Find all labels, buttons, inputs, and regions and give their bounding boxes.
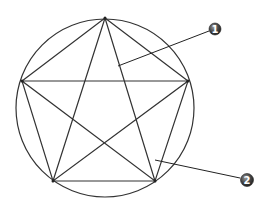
callout-1-leader-line bbox=[118, 31, 209, 66]
vertex-right bbox=[187, 80, 190, 83]
callout-2-leader-line bbox=[155, 160, 240, 178]
callout-2-label: 2 bbox=[244, 175, 251, 186]
outer-circle bbox=[16, 19, 194, 197]
callout-1-label: 1 bbox=[212, 24, 219, 35]
vertex-top bbox=[104, 17, 107, 20]
vertex-bottom-right bbox=[154, 180, 157, 183]
callout-1: 1 bbox=[118, 23, 221, 66]
pentagram-diagram: 1 2 bbox=[0, 0, 270, 217]
callout-2: 2 bbox=[155, 160, 254, 187]
vertex-left bbox=[21, 80, 24, 83]
vertex-bottom-left bbox=[52, 180, 55, 183]
